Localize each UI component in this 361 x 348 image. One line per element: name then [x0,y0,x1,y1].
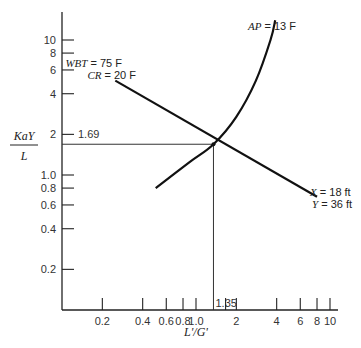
dimension-annotation: X = 18 ft Y = 36 ft [309,186,352,210]
y-tick-label: 2 [50,128,56,140]
condition-wbt-var: WBT [65,57,88,69]
y-ticks: 0.20.40.60.81.0246810 [41,34,74,275]
dimension-y-value: = 36 ft [318,198,352,210]
x-tick-label: 4 [274,315,280,327]
approach-value: = 13 F [261,20,296,32]
condition-cr-var: CR [87,69,101,81]
condition-cr: CR = 20 F [87,69,136,81]
x-tick-label: 2 [233,315,239,327]
condition-cr-value: = 20 F [101,69,136,81]
y-tick-label: 6 [50,64,56,76]
y-tick-label: 8 [50,47,56,59]
y-tick-label: 0.4 [41,223,56,235]
x-tick-label: 6 [297,315,303,327]
dimension-y: Y = 36 ft [312,198,352,210]
reference-lines: 1.691.35 [62,128,237,310]
x-axis-label: L'/G' [183,325,208,339]
approach-var: AP [247,20,262,32]
y-tick-label: 4 [50,88,56,100]
x-tick-label: 8 [314,315,320,327]
operating-point-marker [211,142,215,146]
y-tick-label: 0.2 [41,263,56,275]
y-tick-label: 0.8 [41,182,56,194]
approach-label: AP = 13 F [247,20,296,32]
y-label-denominator: L [20,149,28,163]
x-tick-label: 0.2 [95,315,110,327]
y-tick-label: 0.6 [41,199,56,211]
x-tick-label: 0.4 [135,315,150,327]
x-tick-label: 10 [324,315,336,327]
conditions-annotation: WBT = 75 F CR = 20 F [65,57,136,81]
condition-wbt-value: = 75 F [87,57,122,69]
operating-point-y-label: 1.69 [78,128,99,140]
y-axis-label: KaY L [10,129,38,163]
y-label-numerator: KaY [13,129,36,143]
x-tick-label: 0.6 [159,315,174,327]
approach-annotation: AP = 13 F [247,20,296,32]
y-tick-label: 10 [44,34,56,46]
dimension-x-value: = 18 ft [317,186,351,198]
dimension-x: X = 18 ft [309,186,351,198]
operating-point-x-label: 1.35 [215,297,236,309]
chart: 0.20.40.60.81.0246810 0.20.40.60.81.0246… [0,0,361,348]
condition-wbt: WBT = 75 F [65,57,122,69]
series-group [115,20,317,197]
series-line-tower-characteristic [115,81,317,197]
y-tick-label: 1.0 [41,169,56,181]
